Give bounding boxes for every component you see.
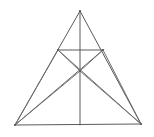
vertex-marker-bottom-right — [140, 123, 142, 125]
vertex-marker-apex — [79, 10, 81, 12]
vertex-marker-chord-right — [102, 49, 104, 51]
vertex-marker-chord-left — [57, 49, 59, 51]
figure-canvas — [0, 0, 154, 137]
vertex-marker-bottom-left — [14, 124, 16, 126]
vertex-marker-center-node — [79, 70, 81, 72]
triangle-figure — [0, 0, 154, 137]
